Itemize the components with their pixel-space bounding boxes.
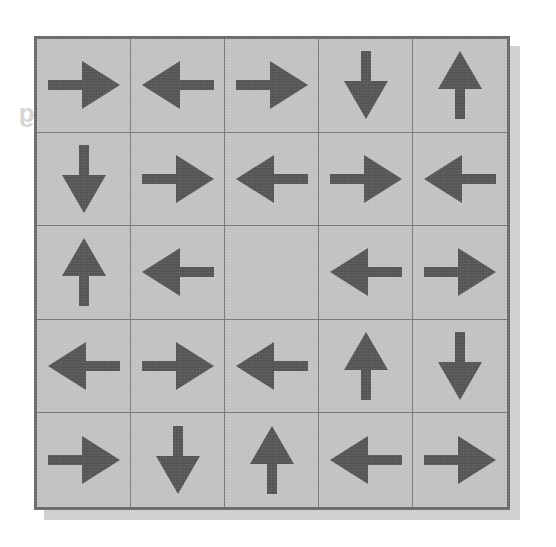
arrow-direction-grid: [34, 36, 510, 510]
arrow-up-icon: [414, 39, 506, 131]
arrow-left-icon: [414, 133, 506, 225]
arrow-right-icon: [132, 320, 224, 412]
arrow-down-icon: [132, 414, 224, 506]
arrow-up-icon: [38, 226, 130, 318]
grid-cell-r3-c1[interactable]: [37, 226, 131, 320]
grid-cell-r3-c2[interactable]: [131, 226, 225, 320]
arrow-down-icon: [38, 133, 130, 225]
arrow-down-icon: [414, 320, 506, 412]
arrow-left-icon: [320, 414, 412, 506]
arrow-right-icon: [38, 39, 130, 131]
grid-cell-r3-c5[interactable]: [413, 226, 507, 320]
arrow-right-icon: [132, 133, 224, 225]
grid-cell-r2-c2[interactable]: [131, 133, 225, 227]
arrow-down-icon: [320, 39, 412, 131]
grid-cell-r5-c2[interactable]: [131, 413, 225, 507]
grid-cell-r5-c3[interactable]: [225, 413, 319, 507]
arrow-right-icon: [320, 133, 412, 225]
arrow-up-icon: [226, 414, 318, 506]
grid-cell-r4-c2[interactable]: [131, 320, 225, 414]
grid-cell-r1-c4[interactable]: [319, 39, 413, 133]
arrow-left-icon: [132, 39, 224, 131]
grid-cell-r4-c3[interactable]: [225, 320, 319, 414]
arrow-left-icon: [226, 133, 318, 225]
grid-cell-r3-c4[interactable]: [319, 226, 413, 320]
arrow-left-icon: [38, 320, 130, 412]
grid-cell-r5-c1[interactable]: [37, 413, 131, 507]
arrow-left-icon: [226, 320, 318, 412]
arrow-left-icon: [320, 226, 412, 318]
arrow-left-icon: [132, 226, 224, 318]
arrow-right-icon: [38, 414, 130, 506]
grid-cell-r1-c3[interactable]: [225, 39, 319, 133]
grid-cell-r2-c4[interactable]: [319, 133, 413, 227]
grid-cell-r2-c5[interactable]: [413, 133, 507, 227]
arrow-right-icon: [414, 414, 506, 506]
grid-cell-r1-c2[interactable]: [131, 39, 225, 133]
grid-cell-r1-c5[interactable]: [413, 39, 507, 133]
arrow-right-icon: [226, 39, 318, 131]
grid-cell-r4-c4[interactable]: [319, 320, 413, 414]
grid-cell-r3-c3-empty[interactable]: [225, 226, 319, 320]
grid-cell-r2-c1[interactable]: [37, 133, 131, 227]
grid-cell-r1-c1[interactable]: [37, 39, 131, 133]
arrow-up-icon: [320, 320, 412, 412]
grid-cell-r2-c3[interactable]: [225, 133, 319, 227]
grid-cell-r4-c1[interactable]: [37, 320, 131, 414]
grid-cell-r4-c5[interactable]: [413, 320, 507, 414]
grid-cell-r5-c5[interactable]: [413, 413, 507, 507]
grid-cell-r5-c4[interactable]: [319, 413, 413, 507]
arrow-right-icon: [414, 226, 506, 318]
